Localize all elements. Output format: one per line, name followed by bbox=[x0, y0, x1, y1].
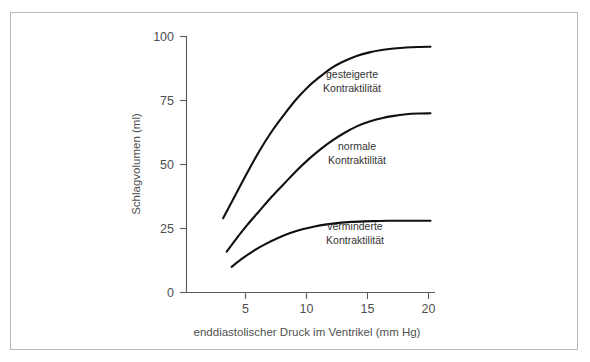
annotation-verminderte-line1: verminderte bbox=[327, 220, 383, 232]
y-tick-label-0: 0 bbox=[167, 286, 174, 300]
y-axis-ticks bbox=[180, 37, 187, 293]
y-tick-label-25: 25 bbox=[160, 222, 174, 236]
y-axis-title: Schlagvolumen (ml) bbox=[130, 113, 142, 215]
x-tick-label-15: 15 bbox=[361, 302, 375, 316]
annotation-normale: normale Kontraktilität bbox=[328, 140, 386, 166]
x-tick-label-20: 20 bbox=[422, 302, 436, 316]
annotation-normale-line2: Kontraktilität bbox=[328, 154, 386, 166]
annotation-gesteigerte-line1: gesteigerte bbox=[326, 68, 378, 80]
annotation-verminderte: verminderte Kontraktilität bbox=[326, 220, 384, 246]
x-axis-title: enddiastolischer Druck im Ventrikel (mm … bbox=[194, 326, 421, 338]
y-tick-label-50: 50 bbox=[160, 158, 174, 172]
chart-plot-area: 100 75 50 25 0 5 10 15 20 enddiastolisch… bbox=[0, 0, 590, 362]
annotation-gesteigerte-line2: Kontraktilität bbox=[323, 82, 381, 94]
x-tick-label-10: 10 bbox=[300, 302, 314, 316]
x-axis-ticks bbox=[246, 293, 429, 300]
y-tick-label-75: 75 bbox=[160, 94, 174, 108]
figure-root: 100 75 50 25 0 5 10 15 20 enddiastolisch… bbox=[0, 0, 590, 362]
x-tick-label-5: 5 bbox=[242, 302, 249, 316]
annotation-verminderte-line2: Kontraktilität bbox=[326, 234, 384, 246]
annotation-normale-line1: normale bbox=[338, 140, 376, 152]
y-tick-label-100: 100 bbox=[153, 30, 174, 44]
annotation-gesteigerte: gesteigerte Kontraktilität bbox=[323, 68, 381, 94]
